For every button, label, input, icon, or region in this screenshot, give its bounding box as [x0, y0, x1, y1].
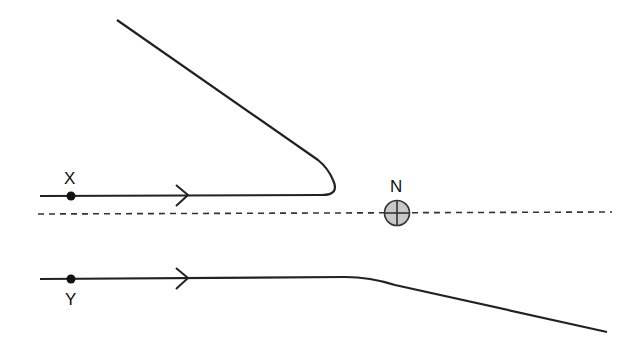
label-x: X	[64, 170, 75, 187]
label-y: Y	[65, 291, 76, 308]
label-n: N	[390, 178, 402, 195]
dashed-axis	[38, 212, 612, 214]
trajectory-y	[40, 277, 607, 332]
point-y	[67, 275, 76, 284]
nucleus-icon	[385, 201, 410, 226]
diagram-canvas	[0, 0, 637, 346]
point-x	[67, 192, 76, 201]
trajectory-x	[40, 20, 335, 196]
